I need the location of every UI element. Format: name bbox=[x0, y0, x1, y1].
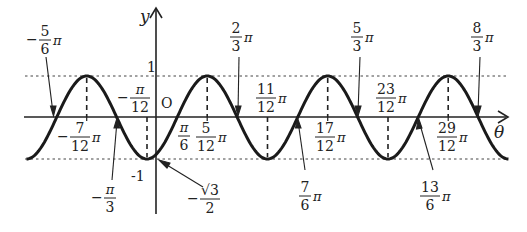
svg-text:7: 7 bbox=[301, 179, 310, 195]
svg-text:3: 3 bbox=[353, 38, 362, 54]
svg-text:12: 12 bbox=[131, 99, 149, 115]
zero-label-13-6: 136π bbox=[420, 179, 451, 213]
svg-text:−: − bbox=[117, 89, 129, 105]
svg-text:12: 12 bbox=[377, 99, 395, 115]
svg-text:3: 3 bbox=[232, 38, 241, 54]
min-label-23-12: 2312π bbox=[376, 81, 407, 115]
y-label-minus-sqrt3-over-2: −√32 bbox=[187, 182, 220, 216]
svg-text:29: 29 bbox=[438, 120, 456, 136]
y-axis-label: y bbox=[139, 6, 150, 26]
svg-text:13: 13 bbox=[421, 179, 439, 195]
x-axis-label: θ bbox=[494, 122, 504, 142]
max-label-17-12: 1712π bbox=[315, 120, 346, 154]
svg-text:π: π bbox=[105, 182, 115, 197]
max-label-5-12: 512π bbox=[196, 120, 227, 154]
svg-text:12: 12 bbox=[257, 99, 275, 115]
sine-graph: y θ O 1 -1 −56π23π53π83π−π376π136ππ6−712… bbox=[0, 0, 527, 232]
svg-text:17: 17 bbox=[316, 120, 334, 136]
min-label-11-12: 1112π bbox=[256, 81, 287, 115]
svg-text:6: 6 bbox=[180, 137, 189, 153]
svg-text:11: 11 bbox=[257, 81, 275, 97]
svg-text:π: π bbox=[277, 91, 287, 106]
svg-text:3: 3 bbox=[473, 38, 482, 54]
svg-text:−: − bbox=[91, 189, 103, 205]
svg-text:π: π bbox=[336, 130, 346, 145]
svg-text:π: π bbox=[243, 30, 253, 45]
min-label-neg-1-12: −π12 bbox=[117, 82, 150, 115]
svg-text:π: π bbox=[397, 91, 407, 106]
svg-text:2: 2 bbox=[206, 200, 215, 216]
svg-text:3: 3 bbox=[106, 199, 115, 215]
svg-text:π: π bbox=[217, 130, 227, 145]
max-label-29-12: 2912π bbox=[437, 120, 468, 154]
svg-text:6: 6 bbox=[426, 197, 435, 213]
theta-labels: −56π23π53π83π−π376π136ππ6−712π512π1712π2… bbox=[26, 20, 494, 216]
svg-text:7: 7 bbox=[76, 120, 85, 136]
svg-text:π: π bbox=[364, 30, 374, 45]
zero-label-7-6: 76π bbox=[299, 179, 322, 213]
svg-text:2: 2 bbox=[232, 20, 241, 36]
svg-text:12: 12 bbox=[197, 138, 215, 154]
zero-label-8-3: 83π bbox=[471, 20, 494, 54]
max-label-neg-7-12: −712π bbox=[57, 120, 101, 154]
svg-text:8: 8 bbox=[473, 20, 482, 36]
svg-text:−: − bbox=[26, 31, 38, 47]
y-label-1: 1 bbox=[147, 59, 156, 75]
svg-text:√3: √3 bbox=[201, 182, 219, 198]
svg-text:−: − bbox=[57, 128, 69, 144]
origin-label: O bbox=[161, 95, 172, 111]
svg-text:π: π bbox=[484, 30, 494, 45]
svg-text:23: 23 bbox=[377, 81, 395, 97]
svg-text:12: 12 bbox=[71, 138, 89, 154]
svg-text:6: 6 bbox=[41, 41, 50, 57]
svg-text:12: 12 bbox=[438, 138, 456, 154]
svg-text:5: 5 bbox=[353, 20, 362, 36]
zero-label-neg-1-3: −π3 bbox=[91, 182, 116, 215]
zero-label-5-3: 53π bbox=[351, 20, 374, 54]
svg-text:π: π bbox=[52, 33, 62, 48]
svg-text:12: 12 bbox=[316, 138, 334, 154]
svg-text:π: π bbox=[91, 130, 101, 145]
svg-text:−: − bbox=[187, 190, 199, 206]
svg-text:π: π bbox=[135, 82, 145, 97]
svg-text:5: 5 bbox=[202, 120, 211, 136]
svg-text:5: 5 bbox=[41, 23, 50, 39]
y-label-minus-1: -1 bbox=[131, 168, 145, 184]
zero-label-neg-5-6: −56π bbox=[26, 23, 62, 57]
svg-text:π: π bbox=[458, 130, 468, 145]
svg-text:π: π bbox=[441, 189, 451, 204]
zero-label-2-3: 23π bbox=[230, 20, 253, 54]
svg-text:6: 6 bbox=[301, 197, 310, 213]
svg-text:π: π bbox=[179, 120, 189, 135]
svg-text:π: π bbox=[312, 189, 322, 204]
zero-label-1-6: π6 bbox=[178, 120, 190, 153]
